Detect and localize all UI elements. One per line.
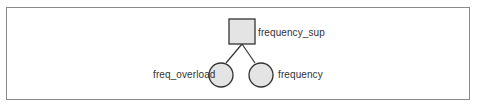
edge-left — [226, 44, 242, 63]
child-circle-node-right — [249, 63, 273, 87]
left-child-label: freq_overload — [153, 69, 215, 80]
edge-right — [242, 44, 255, 63]
tree-diagram — [0, 0, 477, 106]
root-square-node — [229, 19, 255, 44]
right-child-label: frequency — [278, 69, 323, 80]
root-node-label: frequency_sup — [258, 27, 325, 38]
